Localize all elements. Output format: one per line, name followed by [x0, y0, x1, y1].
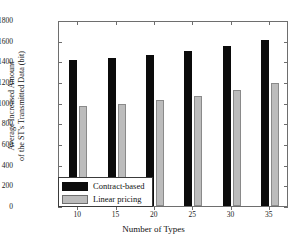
x-tick-label-25: 25: [177, 210, 207, 219]
y-tick-mark-1400: [58, 62, 62, 63]
legend-label-linear-pricing: Linear pricing: [93, 195, 141, 204]
y-tick-mark-right-200: [284, 186, 288, 187]
y-axis-label-line-1: Average Increased Amount: [7, 6, 17, 206]
y-axis-label: Average Increased Amount of the ST's Tra…: [7, 6, 27, 206]
bar-chart-figure: 020040060080010001200140016001800 101520…: [0, 0, 307, 243]
y-tick-mark-1000: [58, 104, 62, 105]
bar-linear-pricing-35: [271, 83, 279, 206]
legend-item-contract-based: Contract-based: [62, 180, 149, 192]
x-tick-mark-25: [192, 206, 193, 210]
x-tick-mark-top-30: [231, 21, 232, 25]
y-tick-mark-800: [58, 124, 62, 125]
x-tick-mark-top-25: [192, 21, 193, 25]
bar-contract-based-35: [261, 40, 269, 206]
legend-item-linear-pricing: Linear pricing: [62, 193, 149, 205]
bar-linear-pricing-25: [194, 96, 202, 206]
legend-swatch-linear-pricing: [62, 195, 88, 204]
x-tick-label-10: 10: [62, 210, 92, 219]
x-tick-mark-20: [154, 206, 155, 210]
y-tick-mark-right-0: [284, 207, 288, 208]
x-tick-label-15: 15: [101, 210, 131, 219]
x-tick-mark-30: [231, 206, 232, 210]
y-tick-mark-right-400: [284, 166, 288, 167]
x-tick-mark-35: [269, 206, 270, 210]
x-tick-label-20: 20: [139, 210, 169, 219]
bar-linear-pricing-30: [233, 90, 241, 206]
y-tick-mark-600: [58, 145, 62, 146]
x-tick-label-30: 30: [216, 210, 246, 219]
legend-swatch-contract-based: [62, 182, 88, 191]
x-tick-mark-top-10: [77, 21, 78, 25]
x-tick-mark-top-15: [116, 21, 117, 25]
y-tick-mark-right-600: [284, 145, 288, 146]
x-tick-label-35: 35: [254, 210, 284, 219]
bar-contract-based-25: [184, 51, 192, 206]
x-axis-label: Number of Types: [0, 224, 307, 234]
y-tick-mark-right-1000: [284, 104, 288, 105]
bar-linear-pricing-20: [156, 100, 164, 206]
x-tick-mark-top-20: [154, 21, 155, 25]
chart-legend: Contract-based Linear pricing: [58, 177, 153, 207]
y-axis-label-line-2: of the ST's Transmitted Data (bit): [17, 6, 27, 206]
legend-label-contract-based: Contract-based: [93, 182, 144, 191]
x-tick-mark-top-35: [269, 21, 270, 25]
y-tick-mark-right-1400: [284, 62, 288, 63]
bar-contract-based-30: [223, 46, 231, 206]
y-tick-mark-right-1600: [284, 42, 288, 43]
y-tick-mark-400: [58, 166, 62, 167]
y-tick-mark-0: [58, 207, 62, 208]
y-tick-mark-right-1200: [284, 83, 288, 84]
y-tick-mark-right-800: [284, 124, 288, 125]
y-tick-mark-1800: [58, 21, 62, 22]
y-tick-mark-1200: [58, 83, 62, 84]
y-tick-mark-right-1800: [284, 21, 288, 22]
y-tick-mark-1600: [58, 42, 62, 43]
